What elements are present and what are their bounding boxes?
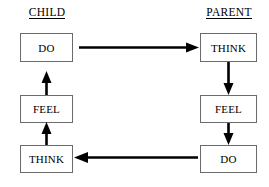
node-parent-think-label: THINK [211, 42, 246, 54]
column-header-parent: PARENT [192, 6, 266, 18]
column-header-child-label: CHILD [29, 6, 66, 19]
column-header-parent-label: PARENT [206, 6, 251, 19]
node-child-feel: FEEL [20, 95, 73, 123]
node-parent-think: THINK [200, 33, 257, 62]
node-parent-feel-label: FEEL [215, 103, 242, 115]
node-parent-do-label: DO [220, 153, 236, 165]
node-child-do-label: DO [38, 42, 54, 54]
node-child-feel-label: FEEL [33, 103, 60, 115]
child-parent-cycle-diagram: CHILD PARENT DO FEEL THINK THINK FEEL DO [0, 0, 269, 187]
node-parent-do: DO [200, 145, 257, 173]
node-child-do: DO [20, 33, 73, 62]
node-child-think: THINK [20, 145, 73, 173]
node-child-think-label: THINK [29, 153, 64, 165]
column-header-child: CHILD [12, 6, 82, 18]
node-parent-feel: FEEL [200, 95, 257, 123]
